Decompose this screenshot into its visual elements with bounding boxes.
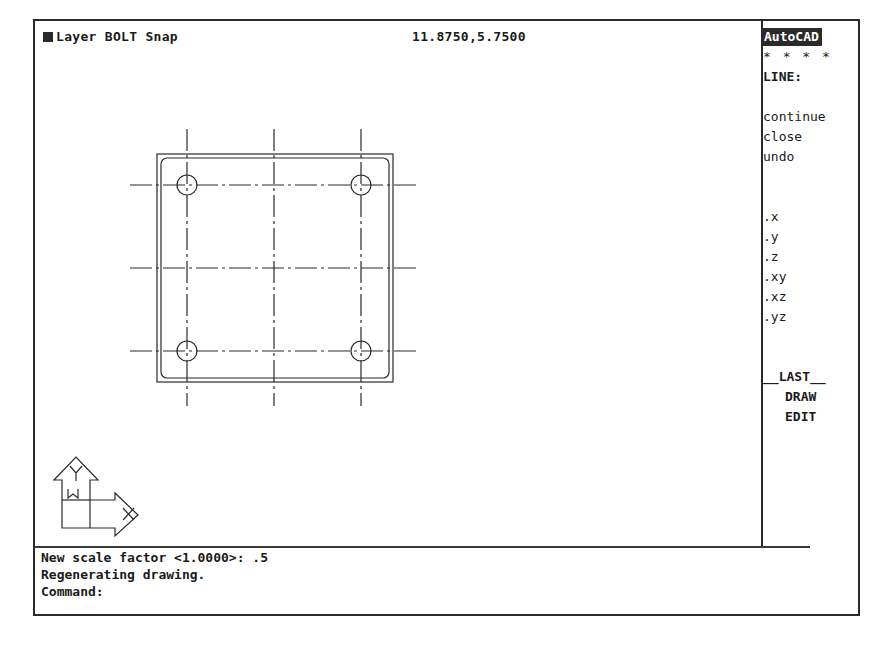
menu-item-draw[interactable]: DRAW [763,387,853,407]
command-area-divider [35,546,810,548]
menu-item-undo[interactable]: undo [763,147,853,167]
command-history-line: New scale factor <1.0000>: .5 [41,549,268,566]
drawing-area[interactable] [35,21,761,546]
menu-stars[interactable]: * * * * [763,47,853,67]
menu-command-line[interactable]: LINE: [763,67,853,87]
menu-title-autocad[interactable]: AutoCAD [763,28,822,46]
menu-item-filter-yz[interactable]: .yz [763,307,853,327]
menu-item-filter-xz[interactable]: .xz [763,287,853,307]
menu-item-last[interactable]: __LAST__ [763,367,853,387]
command-area[interactable]: New scale factor <1.0000>: .5 Regenerati… [41,549,268,600]
command-prompt[interactable]: Command: [41,583,268,600]
command-history-line: Regenerating drawing. [41,566,268,583]
ucs-icon [54,457,138,536]
menu-item-continue[interactable]: continue [763,107,853,127]
autocad-screen: Layer BOLT Snap 11.8750,5.7500 [33,19,860,616]
menu-item-close[interactable]: close [763,127,853,147]
menu-item-filter-xy[interactable]: .xy [763,267,853,287]
screen-menu: AutoCAD * * * * LINE: continue close und… [763,27,853,427]
menu-item-filter-z[interactable]: .z [763,247,853,267]
menu-item-filter-y[interactable]: .y [763,227,853,247]
menu-item-filter-x[interactable]: .x [763,207,853,227]
menu-item-edit[interactable]: EDIT [763,407,853,427]
